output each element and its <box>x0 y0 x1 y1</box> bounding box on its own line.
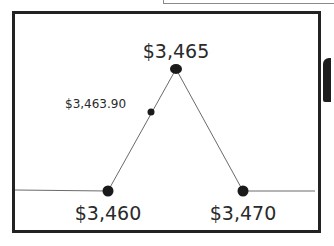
baseline-left <box>15 190 108 191</box>
rising-line <box>108 69 176 191</box>
midpoint-point <box>148 109 155 116</box>
midpoint-label: $3,463.90 <box>65 98 126 110</box>
peak-label: $3,465 <box>143 42 209 61</box>
right-base-point <box>238 186 249 197</box>
falling-line <box>176 69 243 191</box>
left-base-label: $3,460 <box>75 204 141 223</box>
right-base-label: $3,470 <box>210 204 276 223</box>
peak-point <box>170 64 182 74</box>
left-base-point <box>103 186 114 197</box>
